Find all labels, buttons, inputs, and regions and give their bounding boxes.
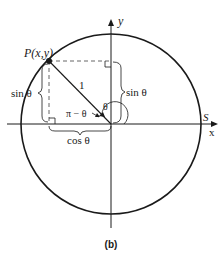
y-axis-arrow-icon [108, 19, 114, 26]
sin-right-label: sin θ [126, 86, 147, 98]
point-label: P(x,y) [23, 46, 53, 60]
right-angle-marker-top [105, 61, 111, 67]
theta-label: θ [103, 101, 108, 112]
x-axis-label: x [209, 126, 215, 138]
cos-label: cos θ [67, 134, 90, 146]
y-axis-label: y [117, 14, 124, 28]
supplement-label: π − θ [66, 108, 87, 119]
s-label: S [203, 111, 209, 123]
sin-right-brace [113, 62, 125, 123]
radius-label: 1 [79, 79, 85, 91]
sin-left-label: sin θ [11, 87, 32, 99]
figure-caption: (b) [105, 239, 118, 250]
sin-left-brace [38, 64, 48, 122]
right-angle-marker-bottom [49, 118, 55, 124]
unit-circle-diagram: P(x,y) 1 θ π − θ sin θ sin θ cos θ x y S… [0, 0, 220, 260]
